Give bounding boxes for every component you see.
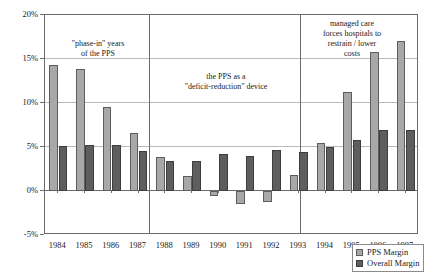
- x-tick-label-1985: 1985: [69, 240, 99, 250]
- x-tick-label-1994: 1994: [310, 240, 340, 250]
- x-tick-mark-1988: [164, 190, 165, 193]
- legend-item-overall-margin[interactable]: Overall Margin: [356, 258, 419, 269]
- x-tick-label-1993: 1993: [283, 240, 313, 250]
- legend-label-pps-margin: PPS Margin: [367, 248, 408, 257]
- x-tick-label-1987: 1987: [123, 240, 153, 250]
- x-tick-label-1989: 1989: [176, 240, 206, 250]
- x-tick-mark-1993: [298, 190, 299, 193]
- x-tick-mark-1991: [244, 190, 245, 193]
- x-tick-label-1984: 1984: [42, 240, 72, 250]
- x-tick-mark-1992: [271, 190, 272, 193]
- x-tick-label-1991: 1991: [229, 240, 259, 250]
- x-tick-mark-1995: [351, 190, 352, 193]
- x-tick-mark-1987: [138, 190, 139, 193]
- x-tick-mark-1989: [191, 190, 192, 193]
- x-axis: 1984198519861987198819891990199119921993…: [0, 0, 440, 274]
- x-tick-label-1990: 1990: [203, 240, 233, 250]
- x-tick-mark-1990: [218, 190, 219, 193]
- x-tick-mark-1984: [57, 190, 58, 193]
- x-tick-mark-1996: [378, 190, 379, 193]
- x-tick-label-1988: 1988: [149, 240, 179, 250]
- x-tick-mark-1986: [111, 190, 112, 193]
- x-tick-mark-1994: [325, 190, 326, 193]
- legend-label-overall-margin: Overall Margin: [367, 259, 419, 268]
- pps-swatch-icon: [356, 249, 363, 256]
- legend-item-pps-margin[interactable]: PPS Margin: [356, 247, 419, 258]
- x-tick-mark-1997: [405, 190, 406, 193]
- x-tick-label-1992: 1992: [256, 240, 286, 250]
- chart-container: 20% 15% 10% 5% 0% -5% "phase-in" years o…: [0, 0, 440, 274]
- x-tick-mark-1985: [84, 190, 85, 193]
- x-tick-label-1986: 1986: [96, 240, 126, 250]
- overall-swatch-icon: [356, 260, 363, 267]
- chart-legend: PPS Margin Overall Margin: [352, 244, 424, 272]
